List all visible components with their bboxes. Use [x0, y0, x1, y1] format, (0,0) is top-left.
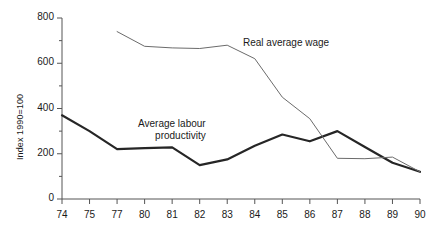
y-axis-tick-label: 400: [37, 102, 54, 113]
annotation-line-1: Average labour: [138, 118, 206, 130]
chart-container: 0200400600800747577808182838485868788899…: [0, 0, 440, 238]
annotation-real-average-wage: Real average wage: [243, 37, 329, 49]
x-tick-marks: [62, 199, 420, 204]
y-axis-tick-label: 0: [48, 192, 54, 203]
y-axis-tick-label: 200: [37, 147, 54, 158]
annotation-line-2: productivity: [138, 130, 206, 142]
y-axis-title: Index 1990=100: [15, 94, 25, 160]
y-tick-marks: [57, 18, 62, 199]
line-chart: [0, 0, 440, 238]
series-line: [117, 32, 420, 172]
y-axis-tick-label: 800: [37, 11, 54, 22]
axes: [62, 18, 420, 199]
series-line: [62, 115, 420, 172]
x-axis-tick-label: 90: [400, 209, 440, 220]
annotation-average-labour-productivity: Average labourproductivity: [138, 118, 206, 142]
y-axis-tick-label: 600: [37, 56, 54, 67]
